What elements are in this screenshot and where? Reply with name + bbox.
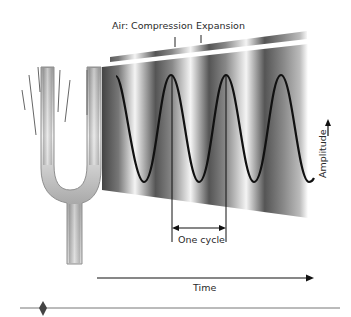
time-arrow-icon: [97, 275, 314, 282]
sound-wave-diagram: [0, 0, 351, 317]
cycle-double-arrow-icon: [172, 225, 226, 231]
expansion-label: Expansion: [196, 21, 245, 31]
diamond-marker-icon: [39, 301, 47, 316]
amplitude-label: Amplitude: [318, 129, 328, 178]
tuning-fork-icon: [41, 67, 101, 264]
time-axis-label: Time: [193, 283, 216, 293]
pressure-field: [102, 44, 308, 218]
compression-label: Air: Compression: [112, 21, 193, 31]
one-cycle-label: One cycle: [178, 235, 225, 245]
